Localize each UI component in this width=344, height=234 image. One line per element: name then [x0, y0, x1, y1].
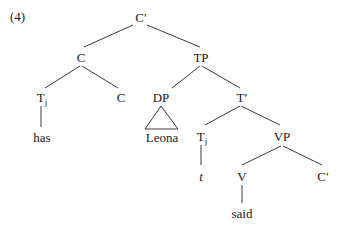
node-dp: DP — [153, 91, 170, 105]
node-c: C — [77, 51, 86, 65]
node-vp: VP — [274, 130, 291, 144]
node-v: V — [237, 170, 246, 184]
node-c-bar-root: C′ — [135, 11, 147, 25]
node-tj-lower: Tj — [197, 130, 207, 148]
leaf-trace: t — [199, 170, 203, 184]
node-c-inner: C — [117, 91, 126, 105]
tree-edges — [0, 0, 344, 234]
leaf-leona: Leona — [146, 131, 178, 145]
node-c-bar-lower: C′ — [317, 170, 329, 184]
node-tp: TP — [193, 51, 208, 65]
leaf-has: has — [33, 131, 50, 145]
node-tj: Tj — [37, 91, 47, 109]
node-t-bar: T′ — [237, 91, 248, 105]
leaf-said: said — [232, 207, 253, 221]
